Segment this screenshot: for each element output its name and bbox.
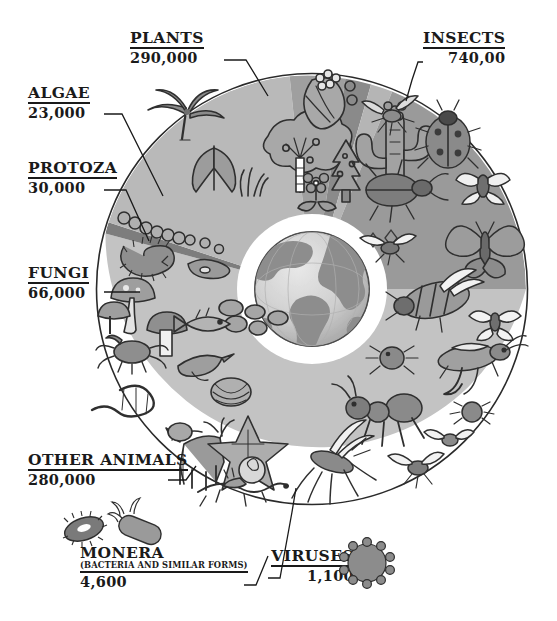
label-protoza-name: PROTOZA (28, 160, 117, 176)
label-algae-name: ALGAE (28, 85, 90, 101)
label-plants-name: PLANTS (130, 30, 204, 46)
label-other-animals-name: OTHER ANIMALS (28, 452, 188, 468)
label-plants-number: 290,000 (130, 50, 204, 65)
label-other-animals[interactable]: OTHER ANIMALS 280,000 (28, 452, 188, 487)
label-viruses-name: VIRUSES (271, 548, 354, 564)
label-viruses[interactable]: VIRUSES 1,100 (271, 548, 354, 583)
label-protoza-number: 30,000 (28, 180, 117, 195)
label-fungi[interactable]: FUNGI 66,000 (28, 265, 89, 300)
label-monera-number: 4,600 (80, 574, 248, 589)
label-other-animals-number: 280,000 (28, 472, 188, 487)
infographic-canvas: PLANTS 290,000 INSECTS 740,00 ALGAE 23,0… (0, 0, 557, 621)
label-insects[interactable]: INSECTS 740,00 (423, 30, 505, 65)
label-insects-name: INSECTS (423, 30, 505, 46)
label-monera-subtitle: (BACTERIA AND SIMILAR FORMS) (80, 561, 248, 570)
label-plants[interactable]: PLANTS 290,000 (130, 30, 204, 65)
label-insects-number: 740,00 (423, 50, 505, 65)
label-viruses-number: 1,100 (271, 568, 354, 583)
label-algae[interactable]: ALGAE 23,000 (28, 85, 90, 120)
label-fungi-number: 66,000 (28, 285, 89, 300)
shell-icon (211, 378, 251, 406)
label-monera[interactable]: MONERA (BACTERIA AND SIMILAR FORMS) 4,60… (80, 545, 248, 590)
label-fungi-name: FUNGI (28, 265, 89, 281)
label-algae-number: 23,000 (28, 105, 90, 120)
label-protoza[interactable]: PROTOZA 30,000 (28, 160, 117, 195)
label-monera-name: MONERA (80, 545, 248, 561)
